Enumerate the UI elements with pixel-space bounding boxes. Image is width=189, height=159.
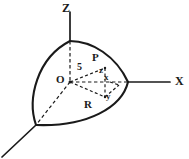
- y-axis-line: [2, 125, 36, 157]
- z-axis-label: Z: [62, 2, 70, 14]
- origin-dot: [69, 81, 72, 84]
- point-p-dot: [104, 67, 106, 69]
- component-x-label: x: [104, 73, 109, 82]
- point-p-label: P: [92, 52, 99, 63]
- origin-label: O: [56, 74, 65, 85]
- axis-hidden-lines: [36, 41, 128, 125]
- diagram-canvas: [0, 0, 189, 159]
- x-axis-label: X: [175, 75, 184, 87]
- coordinate-diagram: Z X O P R 5 z x y: [0, 0, 189, 159]
- axis-lines: [2, 12, 170, 157]
- projection-or-line: [70, 82, 105, 97]
- radius-label: 5: [77, 62, 82, 72]
- sphere-octant: [33, 41, 128, 125]
- component-z-label: z: [99, 66, 103, 75]
- y-axis-hidden: [36, 82, 70, 125]
- component-y-label: y: [106, 92, 111, 101]
- point-r-label: R: [84, 99, 92, 110]
